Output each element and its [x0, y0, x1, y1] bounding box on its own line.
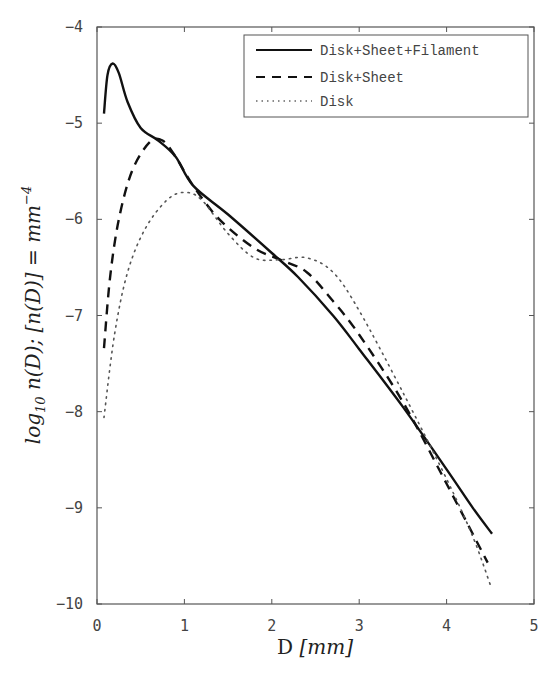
legend-label-disk-sheet-filament: Disk+Sheet+Filament [320, 43, 480, 59]
y-tick-label: −7 [65, 307, 83, 325]
series-dotted-line [104, 192, 490, 584]
y-tick-label: −6 [65, 210, 83, 228]
series-solid-line [104, 64, 492, 534]
series-lines [104, 64, 492, 585]
legend-label-disk: Disk [320, 94, 354, 110]
y-axis-label: log10 n(D); [n(D)] = mm−4 [19, 186, 48, 444]
x-tick-label: 2 [267, 617, 276, 635]
legend-label-disk-sheet: Disk+Sheet [320, 70, 404, 86]
y-tick-label: −4 [65, 18, 83, 36]
y-tick-label: −9 [65, 499, 83, 517]
x-tick-label: 3 [355, 617, 364, 635]
legend: Disk+Sheet+Filament Disk+Sheet Disk [244, 35, 528, 117]
x-tick-label: 1 [180, 617, 189, 635]
chart: 012345−4−5−6−7−8−9−10 Disk+Sheet+Filamen… [0, 0, 555, 685]
series-dashed-line [104, 139, 488, 563]
y-tick-label: −5 [65, 114, 83, 132]
x-tick-label: 5 [529, 617, 538, 635]
x-tick-label: 4 [442, 617, 451, 635]
x-tick-label: 0 [92, 617, 101, 635]
x-axis-label: D [mm] [277, 635, 353, 659]
y-tick-label: −10 [56, 595, 83, 613]
svg-text:log10 n(D); [n(D)] = mm−4: log10 n(D); [n(D)] = mm−4 [19, 186, 48, 444]
y-tick-label: −8 [65, 403, 83, 421]
